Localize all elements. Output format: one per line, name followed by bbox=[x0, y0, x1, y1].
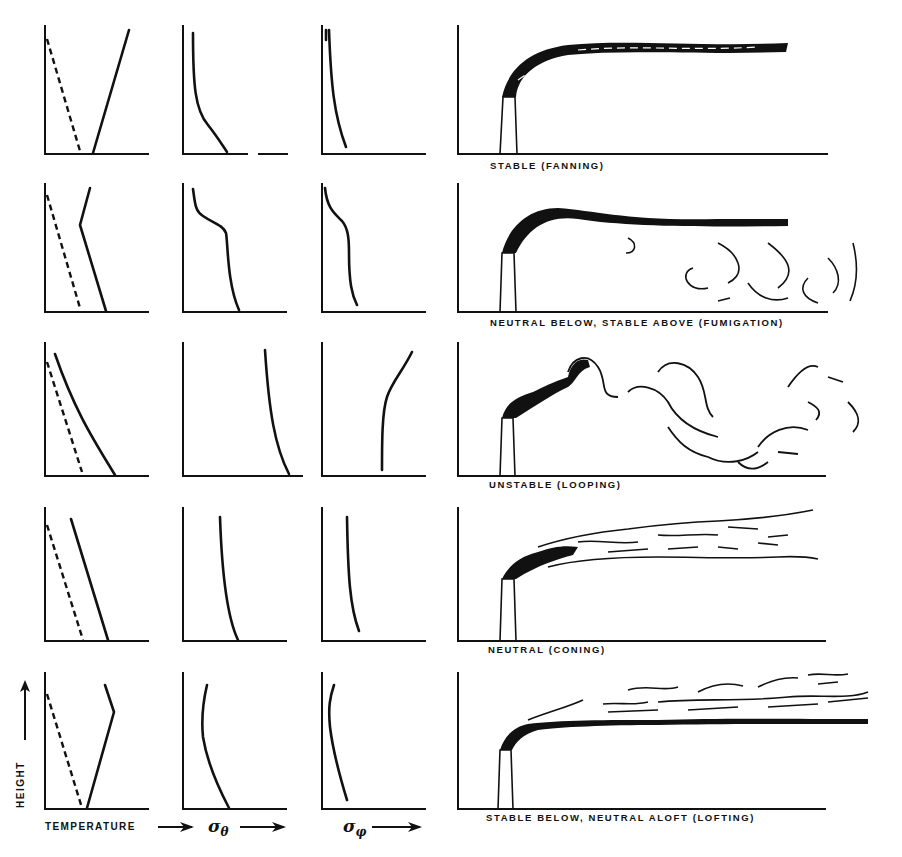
plume-label: UNSTABLE (LOOPING) bbox=[489, 479, 622, 490]
arrow-right-icon bbox=[240, 820, 288, 834]
plume-label: STABLE BELOW, NEUTRAL ALOFT (LOFTING) bbox=[486, 812, 755, 823]
row-looping: UNSTABLE (LOOPING) bbox=[0, 335, 902, 495]
height-axis-label: HEIGHT bbox=[15, 761, 26, 808]
row-fanning: STABLE (FANNING) bbox=[0, 0, 902, 170]
arrow-right-icon bbox=[158, 820, 194, 834]
plume-label: NEUTRAL (CONING) bbox=[488, 644, 606, 655]
sigma-theta-axis-label: σθ bbox=[208, 816, 229, 839]
figure-caption-cutoff bbox=[0, 846, 902, 857]
arrow-right-icon bbox=[372, 820, 424, 834]
temperature-axis-label: TEMPERATURE bbox=[45, 821, 136, 832]
row-fumigation: NEUTRAL BELOW, STABLE ABOVE (FUMIGATION) bbox=[0, 170, 902, 335]
plume-label: NEUTRAL BELOW, STABLE ABOVE (FUMIGATION) bbox=[490, 317, 784, 328]
row-coning: NEUTRAL (CONING) bbox=[0, 495, 902, 655]
row-lofting: STABLE BELOW, NEUTRAL ALOFT (LOFTING) bbox=[0, 655, 902, 805]
sigma-phi-axis-label: σφ bbox=[343, 816, 366, 839]
